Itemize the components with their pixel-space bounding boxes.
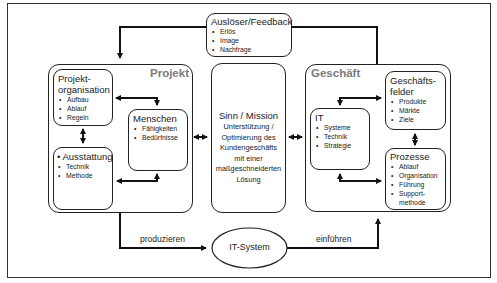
feedback-list: Erlös Image Nachfrage (211, 27, 287, 54)
prozesse-item-continuation: methode (390, 198, 441, 207)
projektorganisation-item: Regeln (58, 113, 108, 122)
it-item: Systeme (315, 123, 365, 132)
feedback-item: Nachfrage (211, 45, 287, 54)
menschen-item: Bedürfnisse (133, 133, 183, 142)
projektorganisation-item: Ablauf (58, 104, 108, 113)
ausstattung-item: Technik (57, 162, 109, 171)
prozesse-item: Support- (390, 189, 441, 198)
menschen-item: Fähigkeiten (133, 124, 183, 133)
produzieren-label: produzieren (140, 234, 185, 244)
sinn-line: mit einer (212, 154, 285, 165)
projektorganisation-title-2: organisation (58, 84, 108, 95)
geschaeftsfelder-item: Ziele (390, 115, 441, 124)
projektorganisation-box: Projekt- organisation Aufbau Ablauf Rege… (53, 69, 113, 126)
geschaeftsfelder-box: Geschäfts- felder Produkte Märkte Ziele (385, 71, 446, 130)
menschen-box: Menschen Fähigkeiten Bedürfnisse (128, 109, 188, 171)
sinn-line: Lösung (212, 175, 285, 186)
geschaeftsfelder-item: Märkte (390, 106, 441, 115)
projekt-title: Projekt (150, 67, 189, 79)
feedback-item: Erlös (211, 27, 287, 36)
it-title: IT (315, 112, 365, 123)
projektorganisation-title-1: Projekt- (58, 73, 108, 84)
feedback-title: Auslöser/Feedback (211, 16, 287, 27)
it-item: Technik (315, 132, 365, 141)
prozesse-box: Prozesse Ablauf Organisation Führung Sup… (385, 148, 446, 210)
geschaeftsfelder-item: Produkte (390, 97, 441, 106)
sinn-line: maßgeschneiderten (212, 164, 285, 175)
geschaeftsfelder-title-1: Geschäfts- (390, 75, 441, 86)
feedback-item: Image (211, 36, 287, 45)
it-item: Strategie (315, 141, 365, 150)
ausstattung-box: • Ausstattung Technik Methode (53, 147, 113, 210)
sinn-line: Kundengeschäfts (212, 143, 285, 154)
sinn-title: Sinn / Mission (212, 110, 285, 122)
sinn-mission-box: Sinn / Mission Unterstützung / Optimieru… (211, 63, 286, 213)
ausstattung-title: • Ausstattung (57, 151, 109, 162)
it-box: IT Systeme Technik Strategie (310, 108, 370, 170)
geschaeftsfelder-title-2: felder (390, 86, 441, 97)
prozesse-item: Führung (390, 180, 441, 189)
geschaeft-title: Geschäft (311, 67, 360, 79)
projektorganisation-item: Aufbau (58, 95, 108, 104)
einfuehren-label: einführen (316, 234, 351, 244)
feedback-line-in (292, 27, 377, 64)
prozesse-item: Organisation (390, 171, 441, 180)
menschen-title: Menschen (133, 113, 183, 124)
it-system-label: IT-System (212, 242, 287, 252)
feedback-arrow-to-projekt (120, 27, 206, 58)
ausstattung-item: Methode (57, 171, 109, 180)
feedback-box: Auslöser/Feedback Erlös Image Nachfrage (206, 13, 292, 57)
prozesse-title: Prozesse (390, 151, 441, 162)
sinn-line: Optimierung des (212, 133, 285, 144)
sinn-line: Unterstützung / (212, 122, 285, 133)
prozesse-item: Ablauf (390, 162, 441, 171)
